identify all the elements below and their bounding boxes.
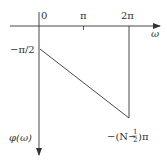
start-value-label: −π/2 [10, 44, 35, 55]
pi-label: π [80, 10, 87, 21]
svg-text:−(N−: −(N− [107, 131, 136, 142]
two-pi-label: 2π [121, 10, 134, 21]
phase-line [40, 49, 129, 118]
svg-text:2: 2 [133, 136, 137, 144]
svg-text:)π: )π [138, 131, 149, 142]
svg-text:1: 1 [133, 128, 137, 136]
phase-diagram: 0 π 2π ω −π/2 φ(ω) −(N− 1 2 )π [0, 0, 167, 162]
x-axis-label: ω [151, 28, 159, 39]
y-axis-label: φ(ω) [9, 132, 32, 143]
end-value-label: −(N− 1 2 )π [107, 128, 149, 144]
origin-label: 0 [41, 10, 47, 21]
